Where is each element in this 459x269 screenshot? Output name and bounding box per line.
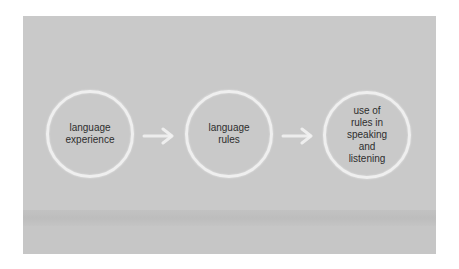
node-label: language experience: [55, 122, 125, 146]
shadow-band: [23, 210, 436, 226]
arrow-right-icon: [142, 127, 176, 145]
node-language-experience: language experience: [46, 90, 134, 178]
node-label: language rules: [194, 122, 264, 146]
node-use-of-rules: use of rules in speaking and listening: [323, 91, 411, 179]
arrow-right-icon: [281, 127, 315, 145]
node-label: use of rules in speaking and listening: [332, 105, 402, 165]
lower-band: [23, 226, 436, 254]
node-language-rules: language rules: [185, 90, 273, 178]
